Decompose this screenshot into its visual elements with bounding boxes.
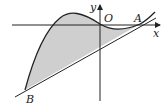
point-b-label: B (25, 93, 34, 106)
point-a-label: A (133, 12, 142, 25)
x-axis-label: x (153, 27, 160, 40)
diagram-canvas: y O A x B (0, 0, 167, 112)
y-axis-label: y (89, 1, 97, 14)
origin-label: O (104, 12, 113, 25)
